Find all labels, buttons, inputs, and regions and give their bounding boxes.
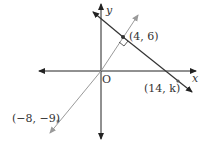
point-label-4-6: (4, 6) [129, 30, 159, 43]
x-axis-label: x [192, 72, 199, 85]
gray-line [50, 15, 138, 133]
point-label-neg8-neg9: (−8, −9) [12, 112, 60, 125]
point-label-14-k: (14, k) [144, 82, 180, 95]
coordinate-diagram: y x O (4, 6) (14, k) (−8, −9) [0, 0, 210, 146]
origin-label: O [102, 73, 111, 86]
y-axis-label: y [105, 4, 113, 17]
point-4-6 [121, 35, 125, 39]
